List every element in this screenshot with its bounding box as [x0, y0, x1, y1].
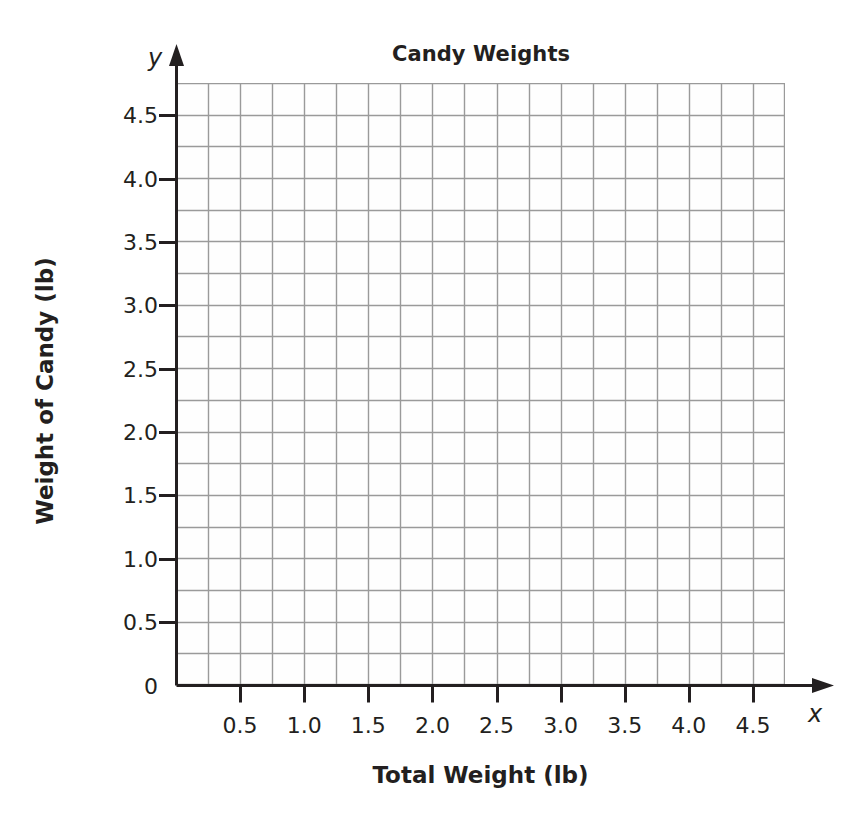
- x-tick-label: 0.5: [223, 713, 258, 738]
- y-tick-label: 3.0: [123, 293, 158, 318]
- y-tick-label: 1.0: [123, 546, 158, 571]
- chart-title: Candy Weights: [176, 42, 786, 66]
- y-tick-label: 2.5: [123, 356, 158, 381]
- x-tick-label: 1.0: [287, 713, 322, 738]
- x-tick-label: 3.0: [543, 713, 578, 738]
- grid-lines: [176, 83, 785, 685]
- plot-grid-area: [176, 83, 785, 685]
- y-tick-label: 2.0: [123, 420, 158, 445]
- y-tick-label: 4.5: [123, 103, 158, 128]
- x-tick-label: 2.0: [415, 713, 450, 738]
- x-tick-label: 2.5: [479, 713, 514, 738]
- y-tick-label: 3.5: [123, 229, 158, 254]
- chart-container: Candy Weights 00.51.01.52.02.53.03.54.04…: [0, 0, 855, 836]
- x-axis-title: Total Weight (lb): [176, 762, 785, 788]
- y-axis-title: Weight of Candy (lb): [32, 161, 58, 621]
- x-tick-label: 1.5: [351, 713, 386, 738]
- x-axis-variable-label: x: [808, 700, 822, 728]
- y-tick-label-group: 00.51.01.52.02.53.03.54.04.5: [0, 0, 158, 836]
- x-tick-label: 3.5: [607, 713, 642, 738]
- y-tick-label: 0.5: [123, 610, 158, 635]
- x-tick-label-group: 0.51.01.52.02.53.03.54.04.5: [0, 713, 855, 753]
- x-tick-label: 4.5: [735, 713, 770, 738]
- y-tick-label: 1.5: [123, 483, 158, 508]
- x-tick-label: 4.0: [671, 713, 706, 738]
- y-tick-label: 4.0: [123, 166, 158, 191]
- y-tick-label: 0: [144, 673, 158, 698]
- y-axis-variable-label: y: [148, 44, 162, 72]
- x-axis-arrow-icon: [812, 678, 834, 693]
